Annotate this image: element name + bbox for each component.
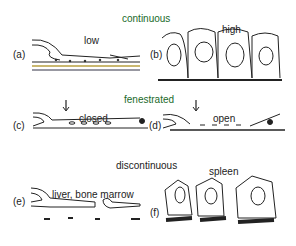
panel-a-drawing bbox=[32, 40, 140, 70]
panel-f-drawing bbox=[165, 176, 276, 222]
panel-e-drawing bbox=[31, 188, 140, 219]
panel-c-drawing bbox=[33, 100, 148, 128]
panel-d-drawing bbox=[163, 100, 285, 130]
capillary-drawings bbox=[0, 0, 296, 246]
panel-b-drawing bbox=[158, 29, 282, 81]
